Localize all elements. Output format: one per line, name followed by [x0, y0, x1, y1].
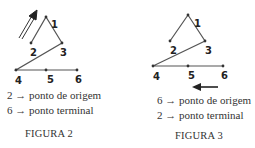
node-label-2: 2	[30, 47, 37, 58]
arrow-right-icon: →	[165, 94, 176, 106]
description: ponto de origem	[179, 94, 251, 106]
node-label-5: 5	[188, 70, 195, 81]
description: ponto terminal	[29, 104, 93, 116]
node-ref: 2	[7, 89, 13, 101]
node-label-3: 3	[205, 45, 212, 56]
node-ref: 6	[157, 94, 163, 106]
figure-2-graph: 1 2 3 4 5 6	[15, 16, 82, 86]
node-label-6: 6	[221, 70, 228, 81]
node-label-5: 5	[47, 74, 54, 85]
figure-2-line-2: 6 → ponto terminal	[7, 104, 93, 116]
figure-3-line-1: 6 → ponto de origem	[157, 94, 251, 106]
node-ref: 2	[157, 109, 163, 121]
arrow-right-icon: →	[15, 89, 26, 101]
figure-2-caption: FIGURA 2	[25, 128, 73, 139]
arrow-left-icon	[192, 83, 218, 91]
node-label-3: 3	[60, 47, 67, 58]
node-label-4: 4	[153, 71, 160, 82]
arrow-right-icon: →	[15, 104, 26, 116]
node-ref: 6	[7, 104, 13, 116]
diagrams-canvas: 1 2 3 4 5 6 1 2 3 4 5 6	[0, 0, 255, 148]
node-label-1: 1	[51, 19, 58, 30]
figure-3-caption: FIGURA 3	[175, 130, 223, 141]
arrow-up-right-icon	[19, 10, 37, 39]
node-label-1: 1	[194, 18, 201, 29]
node-label-6: 6	[75, 74, 82, 85]
arrow-right-icon: →	[165, 109, 176, 121]
node-label-4: 4	[15, 75, 22, 86]
figure-2-line-1: 2 → ponto de origem	[7, 89, 101, 101]
figure-3-graph: 1 2 3 4 5 6	[152, 14, 228, 82]
description: ponto de origem	[29, 89, 101, 101]
node-label-2: 2	[170, 45, 177, 56]
figure-3-line-2: 2 → ponto terminal	[157, 109, 243, 121]
description: ponto terminal	[179, 109, 243, 121]
